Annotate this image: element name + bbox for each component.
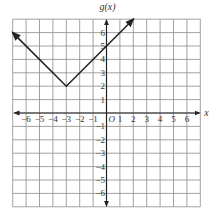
- x-tick-label: 5: [171, 114, 176, 124]
- function-graph: [13, 19, 134, 86]
- y-tick-label: −1: [95, 121, 105, 131]
- y-tick-label: 2: [101, 81, 106, 91]
- x-tick-label: −6: [21, 114, 31, 124]
- y-tick-label: −3: [95, 148, 105, 158]
- x-tick-label: 6: [185, 114, 190, 124]
- y-tick-label: 6: [101, 28, 106, 38]
- y-tick-label: 4: [101, 54, 106, 64]
- x-tick-label: −5: [35, 114, 45, 124]
- x-tick-label: 4: [158, 114, 163, 124]
- x-tick-label: 2: [131, 114, 136, 124]
- x-tick-label: 1: [118, 114, 123, 124]
- y-tick-label: −4: [95, 162, 105, 172]
- y-tick-label: 3: [101, 68, 106, 78]
- x-axis-label: x: [203, 107, 209, 118]
- y-tick-label: 1: [101, 95, 106, 105]
- x-tick-label: −2: [75, 114, 85, 124]
- x-tick-label: 3: [144, 114, 149, 124]
- axes: [15, 20, 200, 206]
- origin-label: O: [109, 114, 116, 124]
- y-tick-label: −2: [95, 135, 105, 145]
- coordinate-plane: −6−5−4−3−2−1123456−6−5−4−3−2−1123456 g(x…: [0, 0, 210, 218]
- y-tick-label: −6: [95, 188, 105, 198]
- curve-g-of-x: [13, 19, 134, 86]
- y-tick-label: −5: [95, 175, 105, 185]
- x-tick-label: −4: [48, 114, 58, 124]
- y-axis-label: g(x): [99, 1, 116, 13]
- x-tick-label: −3: [62, 114, 72, 124]
